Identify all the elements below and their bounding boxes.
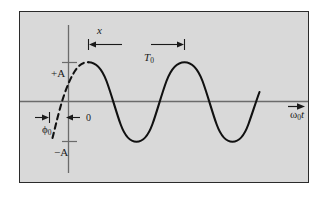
horizontal-axis-label: ω0t [290, 109, 304, 121]
phase-label: ϕ0 [42, 124, 52, 136]
origin-label: 0 [86, 113, 91, 123]
phase-subscript: 0 [48, 128, 52, 137]
period-label: T0 [144, 52, 154, 64]
phase-arrowhead-left [66, 115, 73, 121]
plot-frame: x +A −A 0 T0 ϕ0 ω0t [19, 11, 309, 183]
vertical-axis-label: x [97, 25, 102, 36]
amplitude-positive-label: +A [51, 68, 65, 79]
period-arrowhead-right [177, 42, 184, 48]
period-measure-group [89, 39, 185, 50]
amplitude-negative-label: −A [54, 147, 68, 158]
time-symbol: t [301, 108, 304, 120]
phase-arrowhead-right [42, 115, 49, 121]
period-subscript: 0 [150, 56, 154, 65]
figure-root: x +A −A 0 T0 ϕ0 ω0t [0, 0, 328, 197]
period-arrowhead-left [89, 42, 96, 48]
